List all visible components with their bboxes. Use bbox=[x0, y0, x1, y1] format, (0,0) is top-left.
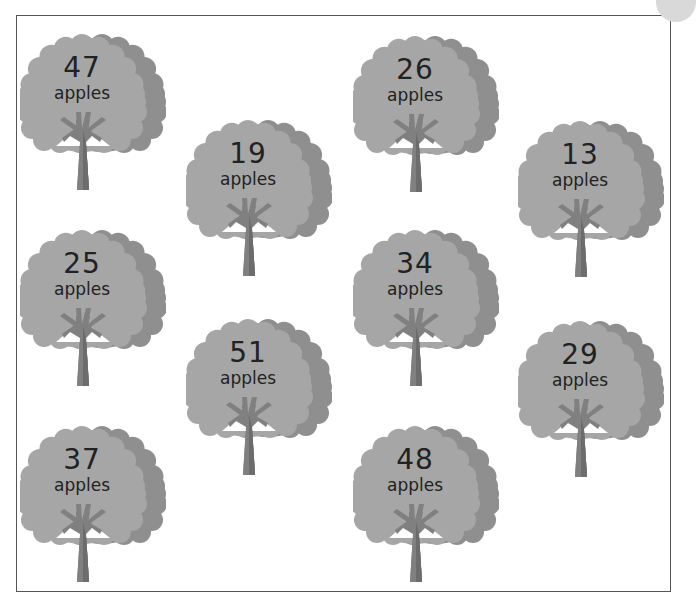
apple-tree: 51apples bbox=[186, 309, 332, 477]
apple-unit: apples bbox=[518, 372, 642, 389]
apple-tree: 47apples bbox=[20, 24, 166, 192]
apple-count: 47 bbox=[20, 54, 144, 82]
apple-count: 37 bbox=[20, 446, 144, 474]
tree-icon bbox=[518, 311, 664, 479]
apple-count: 19 bbox=[186, 140, 310, 168]
apple-unit: apples bbox=[20, 281, 144, 298]
apple-count: 34 bbox=[353, 250, 477, 278]
apple-tree: 25apples bbox=[20, 220, 166, 388]
apple-tree: 48apples bbox=[353, 416, 499, 584]
tree-label: 37apples bbox=[20, 446, 144, 494]
apple-unit: apples bbox=[353, 477, 477, 494]
tree-icon bbox=[353, 416, 499, 584]
tree-label: 29apples bbox=[518, 341, 642, 389]
apple-unit: apples bbox=[353, 281, 477, 298]
tree-label: 26apples bbox=[353, 56, 477, 104]
apple-unit: apples bbox=[518, 172, 642, 189]
apple-count: 51 bbox=[186, 339, 310, 367]
tree-label: 13apples bbox=[518, 141, 642, 189]
apple-tree: 13apples bbox=[518, 111, 664, 279]
apple-count: 26 bbox=[353, 56, 477, 84]
tree-label: 34apples bbox=[353, 250, 477, 298]
apple-tree: 29apples bbox=[518, 311, 664, 479]
tree-label: 19apples bbox=[186, 140, 310, 188]
tree-icon bbox=[20, 220, 166, 388]
apple-tree: 34apples bbox=[353, 220, 499, 388]
tree-icon bbox=[353, 26, 499, 194]
tree-icon bbox=[20, 416, 166, 584]
tree-icon bbox=[186, 110, 332, 278]
apple-unit: apples bbox=[20, 85, 144, 102]
tree-label: 51apples bbox=[186, 339, 310, 387]
tree-label: 47apples bbox=[20, 54, 144, 102]
apple-count: 25 bbox=[20, 250, 144, 278]
apple-tree: 37apples bbox=[20, 416, 166, 584]
apple-unit: apples bbox=[186, 171, 310, 188]
tree-icon bbox=[518, 111, 664, 279]
apple-unit: apples bbox=[20, 477, 144, 494]
apple-count: 29 bbox=[518, 341, 642, 369]
apple-tree: 26apples bbox=[353, 26, 499, 194]
apple-unit: apples bbox=[353, 87, 477, 104]
apple-count: 13 bbox=[518, 141, 642, 169]
tree-icon bbox=[353, 220, 499, 388]
tree-label: 48apples bbox=[353, 446, 477, 494]
apple-count: 48 bbox=[353, 446, 477, 474]
tree-label: 25apples bbox=[20, 250, 144, 298]
apple-unit: apples bbox=[186, 370, 310, 387]
tree-icon bbox=[20, 24, 166, 192]
tree-icon bbox=[186, 309, 332, 477]
apple-tree: 19apples bbox=[186, 110, 332, 278]
